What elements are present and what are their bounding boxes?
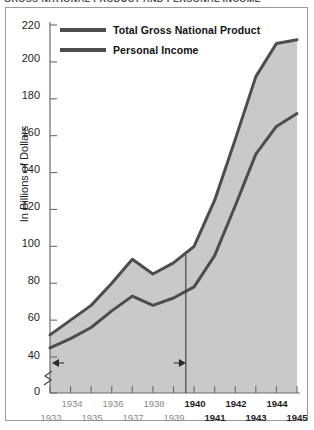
y-tick-60: 60 xyxy=(8,311,40,323)
legend-swatch-gnp xyxy=(60,28,106,32)
x-tick-1933: 1933 xyxy=(31,412,71,423)
y-tick-200: 200 xyxy=(8,52,40,64)
chart-title-clipped: GROSS NATIONAL PRODUCT AND PERSONAL INCO… xyxy=(0,0,314,6)
legend-item-gnp: Total Gross National Product xyxy=(60,24,260,36)
y-tick-180: 180 xyxy=(8,89,40,101)
x-tick-1935: 1935 xyxy=(72,412,112,423)
legend-item-personal-income: Personal Income xyxy=(60,44,199,56)
x-tick-1945: 1945 xyxy=(277,412,314,423)
legend-label-personal-income: Personal Income xyxy=(113,44,199,56)
annotation-great-depression-label: The Great Depression xyxy=(66,355,172,366)
x-tick-1938: 1938 xyxy=(134,398,174,409)
legend-label-gnp: Total Gross National Product xyxy=(113,24,260,36)
x-tick-1942: 1942 xyxy=(216,398,256,409)
y-tick-0: 0 xyxy=(8,385,40,397)
y-tick-40: 40 xyxy=(8,349,40,361)
x-tick-1940: 1940 xyxy=(175,398,215,409)
y-tick-220: 220 xyxy=(8,19,40,31)
chart-figure: GROSS NATIONAL PRODUCT AND PERSONAL INCO… xyxy=(0,0,314,430)
x-tick-1936: 1936 xyxy=(93,398,133,409)
x-tick-1934: 1934 xyxy=(52,398,92,409)
x-tick-1941: 1941 xyxy=(195,412,235,423)
y-axis-label: In Billions of Dollars xyxy=(18,114,30,234)
y-tick-100: 100 xyxy=(8,237,40,249)
x-tick-1944: 1944 xyxy=(257,398,297,409)
chart-title-text: GROSS NATIONAL PRODUCT AND PERSONAL INCO… xyxy=(4,0,261,4)
y-tick-80: 80 xyxy=(8,274,40,286)
x-tick-1943: 1943 xyxy=(236,412,276,423)
legend-swatch-personal-income xyxy=(60,48,106,52)
x-tick-1939: 1939 xyxy=(154,412,194,423)
x-tick-1937: 1937 xyxy=(113,412,153,423)
